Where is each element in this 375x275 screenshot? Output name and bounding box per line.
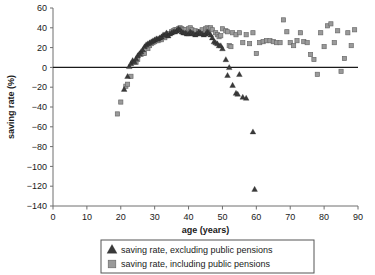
y-tick-label: −80 xyxy=(32,142,47,152)
data-point-square xyxy=(336,29,340,33)
y-tick-label: −140 xyxy=(27,201,47,211)
data-point-square xyxy=(219,34,223,38)
data-point-square xyxy=(278,41,282,45)
data-point-square xyxy=(353,28,357,32)
y-tick-label: 60 xyxy=(37,3,47,13)
chart-canvas: 6040200−20−40−60−80−100−120−140010203040… xyxy=(0,0,375,275)
x-tick-label: 10 xyxy=(82,212,92,222)
legend-label: saving rate, excluding public pensions xyxy=(121,245,273,255)
data-point-square xyxy=(292,44,296,48)
data-point-square xyxy=(332,41,336,45)
data-point-square xyxy=(247,42,251,46)
x-tick-label: 80 xyxy=(319,212,329,222)
data-point-square xyxy=(319,31,323,35)
legend-label: saving rate, including public pensions xyxy=(121,259,271,269)
data-point-square xyxy=(119,100,123,104)
legend-marker-square xyxy=(108,260,116,268)
data-point-square xyxy=(241,41,245,45)
x-tick-label: 30 xyxy=(150,212,160,222)
data-point-square xyxy=(115,112,119,116)
data-point-square xyxy=(229,45,233,49)
x-tick-label: 40 xyxy=(184,212,194,222)
data-point-triangle xyxy=(250,129,256,134)
data-point-triangle xyxy=(225,72,231,77)
y-tick-label: 40 xyxy=(37,23,47,33)
chart-legend: saving rate, excluding public pensionssa… xyxy=(101,240,314,273)
data-point-square xyxy=(285,30,289,34)
data-point-square xyxy=(244,33,248,37)
data-point-square xyxy=(281,18,285,22)
data-point-triangle xyxy=(237,71,243,76)
data-point-square xyxy=(254,51,258,55)
y-tick-label: −40 xyxy=(32,102,47,112)
data-point-square xyxy=(295,39,299,43)
x-tick-label: 20 xyxy=(116,212,126,222)
x-tick-label: 90 xyxy=(353,212,363,222)
data-point-triangle xyxy=(223,57,229,62)
data-point-square xyxy=(329,22,333,26)
data-point-square xyxy=(315,72,319,76)
y-tick-label: 0 xyxy=(42,63,47,73)
data-point-square xyxy=(308,52,312,56)
y-tick-label: −60 xyxy=(32,122,47,132)
data-point-triangle xyxy=(252,186,258,191)
y-axis-title: saving rate (%) xyxy=(6,75,16,139)
data-point-square xyxy=(237,31,241,35)
data-point-square xyxy=(312,57,316,61)
y-tick-label: 20 xyxy=(37,43,47,53)
data-point-square xyxy=(125,82,129,86)
x-tick-label: 50 xyxy=(217,212,227,222)
y-tick-label: −100 xyxy=(27,162,47,172)
data-point-square xyxy=(225,30,229,34)
scatter-chart: 6040200−20−40−60−80−100−120−140010203040… xyxy=(0,0,375,275)
data-point-square xyxy=(298,31,302,35)
x-axis-title: age (years) xyxy=(182,225,230,235)
data-point-square xyxy=(339,69,343,73)
data-point-square xyxy=(322,45,326,49)
x-tick-label: 70 xyxy=(285,212,295,222)
data-point-square xyxy=(342,56,346,60)
data-point-square xyxy=(349,44,353,48)
series-triangle xyxy=(121,26,257,191)
data-point-square xyxy=(305,41,309,45)
data-point-triangle xyxy=(230,82,236,87)
data-point-square xyxy=(346,31,350,35)
y-tick-label: −120 xyxy=(27,181,47,191)
y-tick-label: −20 xyxy=(32,82,47,92)
data-point-square xyxy=(251,31,255,35)
x-tick-label: 60 xyxy=(251,212,261,222)
x-tick-label: 0 xyxy=(50,212,55,222)
